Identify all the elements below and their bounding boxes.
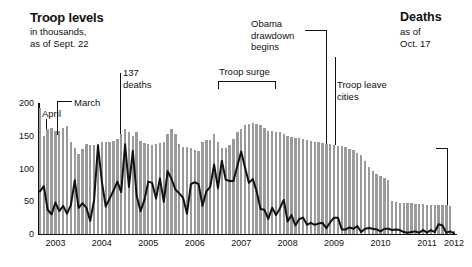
x-tick-2005: 2005 xyxy=(138,238,158,248)
x-tick-2004: 2004 xyxy=(92,238,112,248)
x-tick-2009: 2009 xyxy=(324,238,344,248)
deaths-heading: Deaths as of Oct. 17 xyxy=(400,10,468,49)
infographic-root: Troop levels in thousands, as of Sept. 2… xyxy=(0,0,472,267)
annotation-troop-leave-cities: Troop leave cities xyxy=(337,79,387,102)
x-tick-2010: 2010 xyxy=(371,238,391,248)
annotation-137-deaths: 137 deaths xyxy=(123,67,152,90)
x-tick-2007: 2007 xyxy=(231,238,251,248)
leader-march-horizontal xyxy=(57,101,72,102)
y-tick-100: 100 xyxy=(19,164,34,173)
deaths-subtitle: as of Oct. 17 xyxy=(400,26,468,49)
bracket-troop-surge-top xyxy=(218,81,276,82)
annotation-obama-drawdown: Obama drawdown begins xyxy=(251,18,294,53)
bracket-troop-surge-right xyxy=(275,81,276,89)
page-subtitle: in thousands, as of Sept. 22 xyxy=(30,26,160,49)
deaths-line xyxy=(38,103,456,234)
x-tick-2008: 2008 xyxy=(278,238,298,248)
x-tick-labels: 2003200420052006200720082009201020112012 xyxy=(38,238,457,252)
y-tick-150: 150 xyxy=(19,131,34,140)
plot-area: 050100150200 xyxy=(38,103,456,234)
y-tick-200: 200 xyxy=(19,99,34,108)
bracket-troop-surge-left xyxy=(218,81,219,89)
x-tick-2012: 2012 xyxy=(444,238,464,248)
x-tick-2006: 2006 xyxy=(185,238,205,248)
x-tick-2011: 2011 xyxy=(417,238,436,248)
deaths-polyline xyxy=(40,144,454,233)
y-tick-50: 50 xyxy=(24,197,34,206)
y-tick-0: 0 xyxy=(29,230,34,239)
deaths-title: Deaths xyxy=(400,10,468,25)
leader-obama-drawdown-horizontal xyxy=(305,30,327,31)
troop-levels-heading: Troop levels in thousands, as of Sept. 2… xyxy=(30,10,160,49)
page-title: Troop levels xyxy=(30,10,160,25)
annotation-troop-surge: Troop surge xyxy=(219,66,270,78)
x-tick-2003: 2003 xyxy=(45,238,65,248)
